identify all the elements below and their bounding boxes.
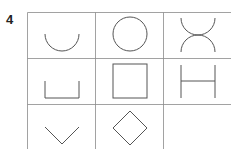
v-shape [45, 127, 79, 144]
puzzle-grid [0, 0, 231, 149]
square-shape [113, 64, 147, 98]
h-shape [181, 65, 215, 98]
diamond-shape [113, 111, 147, 145]
semicircle-cup-shape [45, 34, 79, 51]
circle-shape [113, 17, 147, 51]
square-cup-shape [45, 81, 79, 98]
two-arcs-shape [181, 18, 215, 52]
